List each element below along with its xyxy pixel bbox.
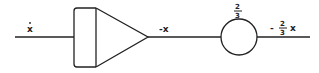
output-numerator: 2 [280, 20, 285, 28]
output-variable: x [290, 23, 296, 33]
gain-numerator: 2 [235, 3, 240, 11]
gain-denominator: 3 [235, 12, 240, 20]
integrator-rect [74, 8, 96, 67]
output-label: - 2 3 x [270, 20, 296, 37]
block-diagram: x -x 2 3 - 2 3 x [0, 0, 319, 73]
integrator-output-label: -x [159, 24, 169, 34]
integrator-block [74, 8, 148, 67]
output-denominator: 3 [280, 29, 285, 37]
gain-fraction: 2 3 [234, 3, 242, 20]
input-label: x [27, 24, 33, 34]
amplifier-triangle [96, 8, 148, 67]
gain-potentiometer [221, 19, 257, 55]
output-sign: - [270, 23, 274, 33]
